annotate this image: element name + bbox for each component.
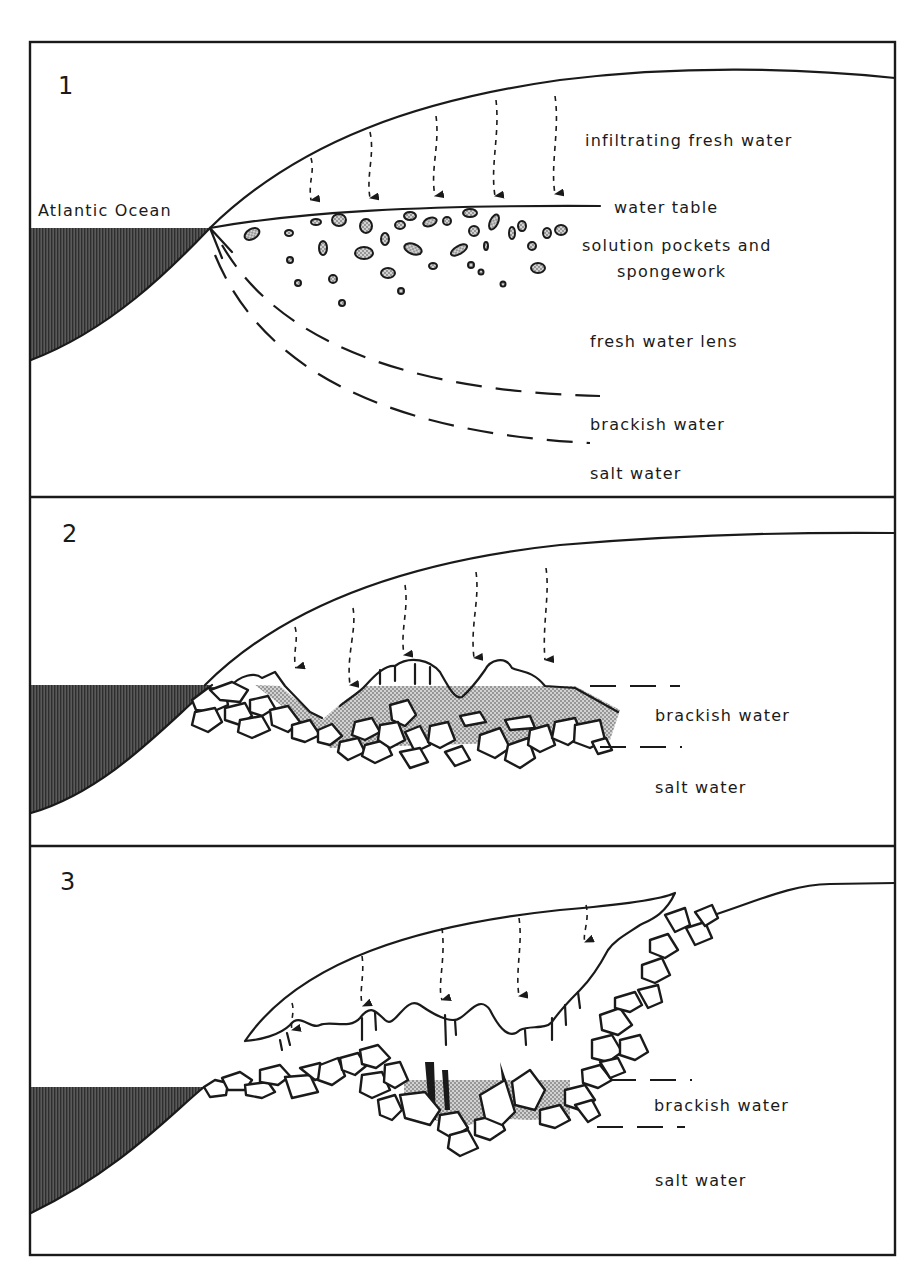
brackish-label: brackish water [654, 1096, 789, 1115]
panel-2: 2 [31, 520, 895, 813]
salt-label: salt water [655, 1171, 747, 1190]
brackish-salt-boundary [215, 255, 590, 443]
ocean-water [31, 1087, 204, 1213]
salt-label: salt water [590, 464, 682, 483]
cave-formation-diagram: 1 Atlantic Ocean [0, 0, 921, 1282]
brackish-label: brackish water [655, 706, 790, 725]
panel-number: 3 [60, 868, 75, 896]
brackish-label: brackish water [590, 415, 725, 434]
panel-1: 1 Atlantic Ocean [31, 70, 895, 483]
land-surface [717, 883, 895, 914]
panel-number: 2 [62, 520, 77, 548]
solution-pockets [243, 209, 567, 306]
panel-number: 1 [58, 72, 73, 100]
infiltration-arrows [292, 905, 588, 1030]
pockets-label-line2: spongework [617, 262, 726, 281]
infiltration-arrows [310, 96, 556, 200]
ocean-water [31, 685, 212, 813]
infiltration-label: infiltrating fresh water [585, 131, 793, 150]
figure-frame [30, 42, 895, 1255]
infiltration-arrows [295, 568, 547, 685]
water-table-label: water table [614, 198, 718, 217]
fresh-lens-label: fresh water lens [590, 332, 738, 351]
panel-3: 3 [31, 868, 895, 1213]
land-surface [205, 533, 895, 685]
salt-label: salt water [655, 778, 747, 797]
ocean-water [31, 228, 210, 360]
ocean-label: Atlantic Ocean [38, 201, 172, 220]
pockets-label-line1: solution pockets and [582, 236, 772, 255]
